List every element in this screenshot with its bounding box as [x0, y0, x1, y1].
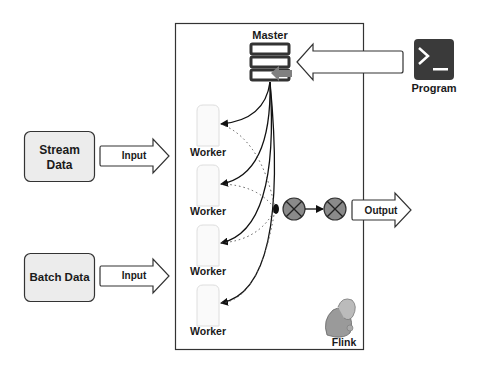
worker-3-label: Worker	[190, 265, 226, 277]
batch-data-label: Batch Data	[29, 271, 90, 283]
program-label: Program	[411, 82, 456, 94]
operator-1	[283, 198, 305, 220]
worker-4-label: Worker	[190, 325, 226, 337]
terminal-icon	[414, 39, 454, 80]
worker-2-label: Worker	[190, 205, 226, 217]
flink-architecture-diagram: Master Program Stream Data Input Batch D…	[0, 0, 478, 371]
server-stack-icon	[251, 44, 292, 81]
stream-data-label-line2: Data	[46, 158, 72, 172]
stream-data-label-line1: Stream	[39, 143, 80, 157]
operator-2	[324, 198, 346, 220]
merge-node	[273, 204, 279, 214]
master-label: Master	[252, 29, 288, 41]
batch-input-label: Input	[122, 270, 147, 281]
stream-input-label: Input	[122, 150, 147, 161]
worker-1-label: Worker	[190, 146, 226, 158]
flink-label: Flink	[332, 336, 357, 348]
output-label: Output	[365, 205, 398, 216]
